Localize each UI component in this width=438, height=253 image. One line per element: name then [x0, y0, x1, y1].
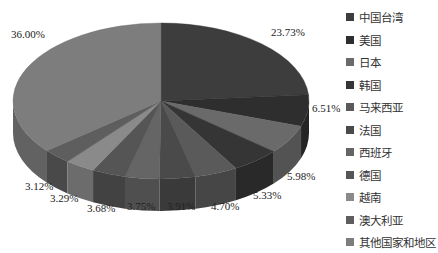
legend-item: 越南	[346, 186, 436, 209]
pie-data-label: 36.00%	[11, 28, 45, 40]
legend-swatch-icon	[346, 126, 354, 134]
legend-swatch-icon	[346, 13, 354, 21]
legend-item: 澳大利亚	[346, 209, 436, 232]
pie-data-label: 3.12%	[25, 180, 53, 192]
legend-item: 其他国家和地区	[346, 231, 436, 253]
legend-swatch-icon	[346, 148, 354, 156]
pie-data-label: 3.68%	[87, 202, 115, 214]
legend-swatch-icon	[346, 193, 354, 201]
legend-item: 德国	[346, 164, 436, 187]
legend-item: 日本	[346, 51, 436, 74]
pie-data-label: 6.51%	[312, 102, 340, 114]
legend-item: 马来西亚	[346, 96, 436, 119]
legend-swatch-icon	[346, 171, 354, 179]
legend-swatch-icon	[346, 103, 354, 111]
pie-data-label: 3.91%	[167, 200, 195, 212]
legend-swatch-icon	[346, 81, 354, 89]
legend-item: 法国	[346, 119, 436, 142]
legend-item: 美国	[346, 29, 436, 52]
legend-item: 中国台湾	[346, 6, 436, 29]
pie-data-label: 5.98%	[287, 170, 315, 182]
pie-data-label: 3.29%	[50, 192, 78, 204]
legend-swatch-icon	[346, 58, 354, 66]
pie-data-label: 23.73%	[271, 26, 305, 38]
legend-item: 韩国	[346, 74, 436, 97]
legend-item: 西班牙	[346, 141, 436, 164]
legend-swatch-icon	[346, 238, 354, 246]
chart-legend: 中国台湾 美国 日本 韩国 马来西亚 法国 西班牙 德国 越南 澳大利亚 其他国…	[346, 6, 436, 253]
pie-data-label: 4.70%	[211, 200, 239, 212]
pie-data-label: 3.75%	[127, 200, 155, 212]
pie-data-label: 5.33%	[253, 189, 281, 201]
legend-swatch-icon	[346, 36, 354, 44]
legend-swatch-icon	[346, 216, 354, 224]
